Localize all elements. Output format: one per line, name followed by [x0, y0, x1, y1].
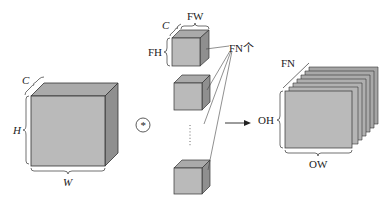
filter-cube-3 — [174, 160, 210, 194]
filter-height-label: FH — [148, 46, 162, 58]
result-arrow — [225, 120, 251, 126]
filter-cube-2 — [174, 75, 210, 110]
filter-count-leaders — [204, 46, 232, 170]
output-height-brace — [277, 91, 283, 148]
output-width-label: OW — [309, 158, 328, 170]
input-height-brace — [23, 96, 29, 164]
filter-1-front-face — [172, 38, 200, 66]
filter-count-label: FN个 — [229, 42, 254, 54]
input-data-cube: C H W — [12, 74, 118, 188]
filter-3-front-face — [174, 168, 202, 194]
filter-width-label: FW — [187, 10, 204, 22]
filter-stack: FW C FH FN个 — [148, 10, 254, 194]
input-channel-label: C — [22, 74, 30, 86]
convolution-operator: * — [136, 118, 150, 132]
output-layer-1 — [285, 91, 352, 148]
filter-2-front-face — [174, 83, 202, 110]
output-height-label: OH — [258, 114, 274, 126]
output-width-brace — [285, 150, 352, 156]
output-depth-label: FN — [281, 57, 295, 69]
input-cube-top-face — [31, 83, 118, 96]
output-feature-map-stack: FN OH OW — [258, 57, 378, 170]
filter-width-brace — [181, 23, 209, 29]
input-width-brace — [31, 168, 105, 174]
filter-channel-label: C — [162, 19, 170, 31]
input-height-label: H — [12, 124, 22, 136]
convolution-diagram: C H W * FW C FH — [0, 0, 391, 204]
operator-symbol: * — [141, 119, 147, 131]
filter-height-brace — [164, 38, 170, 66]
filter-cube-1 — [172, 30, 209, 66]
input-cube-front-face — [31, 96, 105, 166]
input-width-label: W — [63, 176, 73, 188]
input-cube-side-face — [105, 83, 118, 166]
